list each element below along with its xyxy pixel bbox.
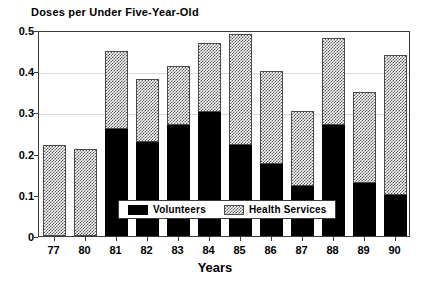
x-tick-label: 84 <box>202 244 214 256</box>
legend-label: Health Services <box>249 204 327 215</box>
bar-segment-health-services[interactable] <box>229 34 251 144</box>
bar-segment-health-services[interactable] <box>167 66 189 125</box>
y-tick-mark <box>34 196 38 197</box>
bar-segment-health-services[interactable] <box>43 145 65 236</box>
y-axis: 00.10.20.30.40.5 <box>0 31 34 237</box>
y-tick-label: 0.3 <box>19 108 34 119</box>
y-tick-mark <box>34 237 38 238</box>
chart-title: Doses per Under Five-Year-Old <box>31 6 199 18</box>
bar-segment-volunteers[interactable] <box>136 142 158 236</box>
legend-label: Volunteers <box>153 204 206 215</box>
chart-legend: VolunteersHealth Services <box>118 200 336 219</box>
x-tick-label: 90 <box>388 244 400 256</box>
x-tick-mark <box>333 237 334 241</box>
y-tick-mark <box>34 31 38 32</box>
y-tick-label: 0.2 <box>19 149 34 160</box>
x-tick-label: 88 <box>326 244 338 256</box>
y-tick-mark <box>34 72 38 73</box>
bar-segment-health-services[interactable] <box>353 92 375 183</box>
x-tick-label: 77 <box>47 244 59 256</box>
x-tick-mark <box>178 237 179 241</box>
bar-segment-health-services[interactable] <box>105 51 127 129</box>
bar-group[interactable] <box>384 31 406 236</box>
bar-segment-volunteers[interactable] <box>105 129 127 236</box>
bar-segment-health-services[interactable] <box>322 38 344 125</box>
x-axis-title: Years <box>0 260 430 275</box>
bar-segment-health-services[interactable] <box>291 111 313 186</box>
bar-group[interactable] <box>43 31 65 236</box>
legend-entry: Volunteers <box>128 204 206 215</box>
y-tick-label: 0.1 <box>19 190 34 201</box>
legend-swatch-hatch <box>224 205 244 215</box>
bar-segment-health-services[interactable] <box>198 43 220 112</box>
x-tick-label: 86 <box>264 244 276 256</box>
bar-segment-health-services[interactable] <box>136 79 158 142</box>
x-tick-mark <box>271 237 272 241</box>
bar-segment-volunteers[interactable] <box>384 195 406 236</box>
bar-group[interactable] <box>353 31 375 236</box>
x-tick-mark <box>395 237 396 241</box>
bar-segment-volunteers[interactable] <box>353 183 375 236</box>
y-tick-mark <box>34 113 38 114</box>
x-tick-mark <box>116 237 117 241</box>
y-tick-mark <box>34 155 38 156</box>
x-tick-label: 85 <box>233 244 245 256</box>
x-tick-mark <box>85 237 86 241</box>
x-tick-label: 81 <box>109 244 121 256</box>
bar-segment-volunteers[interactable] <box>322 125 344 236</box>
x-tick-label: 80 <box>78 244 90 256</box>
bar-segment-health-services[interactable] <box>74 149 96 236</box>
legend-swatch-solid <box>128 205 148 215</box>
bar-segment-health-services[interactable] <box>384 55 406 195</box>
x-tick-mark <box>54 237 55 241</box>
x-tick-mark <box>209 237 210 241</box>
bar-segment-health-services[interactable] <box>260 71 282 164</box>
x-tick-mark <box>240 237 241 241</box>
bar-group[interactable] <box>74 31 96 236</box>
x-tick-mark <box>147 237 148 241</box>
y-tick-label: 0.4 <box>19 67 34 78</box>
x-tick-label: 82 <box>140 244 152 256</box>
bar-chart: Doses per Under Five-Year-Old 00.10.20.3… <box>0 0 430 286</box>
x-tick-label: 89 <box>357 244 369 256</box>
x-tick-label: 83 <box>171 244 183 256</box>
bar-segment-volunteers[interactable] <box>229 145 251 236</box>
legend-entry: Health Services <box>224 204 327 215</box>
x-tick-label: 87 <box>295 244 307 256</box>
y-tick-label: 0.5 <box>19 26 34 37</box>
bar-segment-volunteers[interactable] <box>167 125 189 236</box>
x-tick-mark <box>302 237 303 241</box>
x-tick-mark <box>364 237 365 241</box>
